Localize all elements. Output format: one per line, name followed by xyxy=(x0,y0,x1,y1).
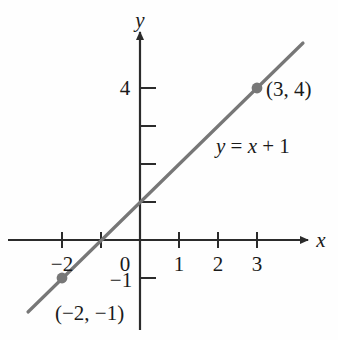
equation-constant: 1 xyxy=(279,134,290,158)
x-axis xyxy=(8,232,308,248)
y-axis-ticks xyxy=(140,88,156,278)
coordinate-plane xyxy=(0,0,338,340)
equation-equals: = xyxy=(231,134,243,158)
point-label-neg2-neg1: (−2, −1) xyxy=(55,303,124,324)
point-label-3-4: (3, 4) xyxy=(266,79,312,100)
x-axis-label: x xyxy=(316,230,325,251)
y-tick-label-neg1: −1 xyxy=(110,270,132,291)
y-axis-label: y xyxy=(135,10,144,31)
equation-label: y = x + 1 xyxy=(216,136,290,157)
equation-lhs: y xyxy=(216,134,225,158)
x-tick-label-1: 1 xyxy=(174,254,185,275)
y-tick-label-4: 4 xyxy=(120,78,131,99)
equation-variable: x xyxy=(248,134,257,158)
x-tick-label-2: 2 xyxy=(213,254,224,275)
y-axis xyxy=(140,32,156,330)
equation-plus: + xyxy=(262,134,274,158)
x-tick-label-neg2: −2 xyxy=(51,254,73,275)
data-point-3-4 xyxy=(252,83,263,94)
x-tick-label-3: 3 xyxy=(252,254,263,275)
graph-figure: x y −2 0 1 2 3 4 −1 (3, 4) (−2, −1) y = … xyxy=(0,0,338,340)
